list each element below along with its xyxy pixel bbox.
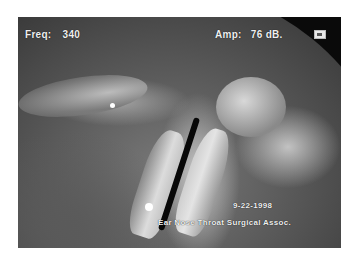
specular-highlight — [110, 103, 115, 108]
amplitude-label: Amp: — [215, 29, 242, 40]
endoscope-image: Freq: 340 Amp: 76 dB. 9-22-1998 Ear Nose… — [18, 17, 341, 248]
specular-highlight — [145, 203, 153, 211]
credit-text: Ear Nose Throat Surgical Assoc. — [158, 218, 291, 227]
arytenoid-region — [216, 77, 286, 137]
frequency-readout: Freq: 340 — [25, 29, 80, 40]
frequency-value: 340 — [63, 29, 81, 40]
amplitude-value: 76 dB. — [251, 29, 283, 40]
date-stamp: 9-22-1998 — [233, 201, 272, 210]
frequency-label: Freq: — [25, 29, 52, 40]
small-box-icon — [314, 30, 326, 39]
amplitude-readout: Amp: 76 dB. — [215, 29, 283, 40]
